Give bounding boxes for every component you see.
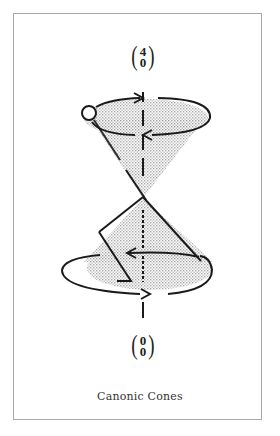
figure-caption: Canonic Cones: [0, 390, 280, 403]
bottom-label: ( 0 0 ): [128, 335, 158, 359]
upper-cone: [84, 99, 208, 198]
open-paren: (: [131, 43, 137, 70]
arrow-right-icon-lower: [141, 289, 150, 299]
close-paren: ): [148, 332, 154, 359]
open-paren: (: [131, 332, 137, 359]
lower-cone: [84, 198, 213, 290]
close-paren: ): [148, 43, 154, 70]
top-label: ( 4 0 ): [128, 46, 158, 70]
circle-marker-icon: [82, 106, 96, 120]
